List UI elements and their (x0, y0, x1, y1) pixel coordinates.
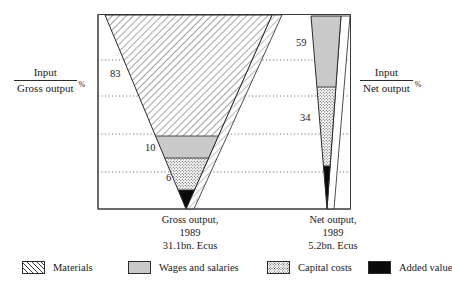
percent-sign: % (415, 80, 422, 89)
legend-item-capital-costs: Capital costs (267, 258, 352, 276)
chart-legend: Materials Wages and salaries Capital cos… (18, 258, 438, 278)
funnel-gross-output (100, 14, 282, 211)
segment-gross-wages (100, 136, 280, 158)
fraction-net: Input Net output (360, 66, 413, 94)
fraction-denominator: Gross output (14, 81, 77, 95)
caption-gross-output: Gross output, 1989 31.1bn. Ecus (120, 214, 260, 252)
percent-sign: % (79, 80, 86, 89)
fraction-numerator: Input (360, 66, 413, 81)
legend-label-materials: Materials (53, 262, 93, 273)
legend-item-added-value: Added value (368, 258, 452, 276)
fraction-gross: Input Gross output (14, 66, 77, 94)
value-label-gross-materials: 83 (110, 68, 121, 79)
segment-gross-capital (100, 158, 280, 190)
legend-swatch-wages-icon (128, 261, 151, 274)
value-label-net-capital: 34 (300, 112, 311, 123)
caption-net-output: Net output, 1989 5.2bn. Ecus (268, 214, 398, 252)
legend-swatch-capital-icon (267, 261, 290, 274)
funnel-net-output (305, 14, 350, 211)
value-label-gross-capital: 6 (166, 172, 171, 183)
fraction-numerator: Input (14, 66, 77, 81)
legend-swatch-added-value-icon (368, 261, 391, 274)
legend-swatch-materials-icon (22, 261, 45, 274)
value-label-net-wages: 59 (296, 37, 307, 48)
value-label-gross-wages: 10 (145, 142, 156, 153)
caption-amount: 5.2bn. Ecus (268, 240, 398, 253)
legend-item-wages-and-salaries: Wages and salaries (128, 258, 239, 276)
fraction-denominator: Net output (360, 81, 413, 95)
caption-year: 1989 (120, 227, 260, 240)
axis-label-net-output: Input Net output % (360, 66, 421, 94)
caption-amount: 31.1bn. Ecus (120, 240, 260, 253)
legend-label-capital: Capital costs (298, 262, 352, 273)
axis-label-gross-output: Input Gross output % (14, 66, 85, 94)
legend-item-materials: Materials (22, 258, 93, 276)
caption-year: 1989 (268, 227, 398, 240)
legend-label-wages: Wages and salaries (159, 262, 239, 273)
legend-label-added-value: Added value (399, 262, 452, 273)
caption-title: Net output, (268, 214, 398, 227)
caption-title: Gross output, (120, 214, 260, 227)
